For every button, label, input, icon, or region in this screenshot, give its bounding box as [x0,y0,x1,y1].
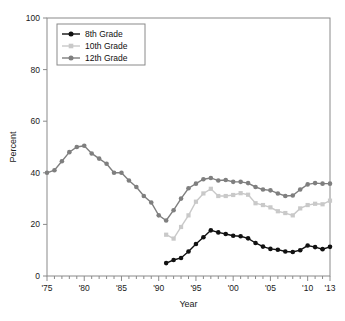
x-tick-label: '05 [265,283,276,293]
data-point [89,151,94,156]
data-point [246,181,251,186]
data-point [224,194,228,198]
data-point [261,203,265,207]
data-point [276,209,280,213]
data-point [223,178,228,183]
data-point [194,242,199,247]
data-point [313,202,317,206]
legend-label: 10th Grade [85,41,128,51]
x-tick-label: '10 [302,283,313,293]
data-point [268,205,272,209]
series-3 [45,143,333,222]
x-tick-label: '95 [190,283,201,293]
data-point [179,256,184,261]
data-point [320,247,325,252]
data-point [104,161,109,166]
x-tick-label: '13 [324,283,335,293]
data-point [216,178,221,183]
data-point [164,218,169,223]
x-axis-title: Year [179,299,197,309]
data-point [209,176,214,181]
data-point [253,241,258,246]
y-tick-label: 60 [31,116,41,126]
data-point [313,181,318,186]
data-point [201,177,206,182]
series-1 [164,228,332,265]
data-point [67,150,72,155]
data-point [172,236,176,240]
data-point [171,208,176,213]
data-point [186,186,191,191]
x-tick-label: '75 [41,283,52,293]
data-point [223,232,228,237]
data-point [119,171,124,176]
data-point [306,203,310,207]
legend-label: 12th Grade [85,53,128,63]
data-point [238,234,243,239]
data-point [45,171,50,176]
data-point [74,145,79,150]
data-point [52,168,57,173]
series-2 [164,187,332,241]
data-point [186,249,191,254]
x-tick-label: '80 [79,283,90,293]
data-point [328,245,333,250]
data-point [261,187,266,192]
data-point [164,261,169,266]
y-tick-label: 40 [31,168,41,178]
legend-label: 8th Grade [85,29,123,39]
data-point [261,244,266,249]
data-point [320,202,324,206]
legend-swatch-marker [69,56,74,61]
data-point [291,213,295,217]
line-chart: 020406080100'75'80'85'90'95'00'05'10'13Y… [0,0,345,321]
data-point [276,247,281,252]
data-point [209,228,214,233]
y-tick-label: 0 [35,271,40,281]
data-point [290,193,295,198]
data-point [246,236,251,241]
y-tick-label: 100 [26,13,40,23]
y-tick-label: 20 [31,219,41,229]
data-point [60,159,65,164]
data-point [290,250,295,255]
data-point [194,200,198,204]
y-tick-label: 80 [31,65,41,75]
x-tick-label: '85 [116,283,127,293]
data-point [156,213,161,218]
x-tick-label: '90 [153,283,164,293]
data-point [305,182,310,187]
legend-swatch-marker [69,32,74,37]
data-point [127,178,132,183]
data-point [298,187,303,192]
data-point [283,211,287,215]
data-point [171,258,176,263]
data-point [283,194,288,199]
data-point [298,206,302,210]
y-axis-title: Percent [8,131,18,163]
data-point [231,193,235,197]
data-point [142,194,147,199]
legend-swatch-marker [69,44,74,49]
data-point [149,200,154,205]
data-point [82,143,87,148]
data-point [164,233,168,237]
data-point [231,180,236,185]
data-point [179,196,184,201]
data-point [276,191,281,196]
data-point [253,201,257,205]
data-point [134,185,139,190]
data-point [209,187,213,191]
data-point [283,249,288,254]
data-point [112,171,117,176]
data-point [201,235,206,240]
data-point [216,230,221,235]
data-point [313,245,318,250]
data-point [239,191,243,195]
data-point [246,193,250,197]
data-point [201,191,205,195]
data-point [320,181,325,186]
series-line [47,146,330,221]
data-point [268,247,273,252]
data-point [253,185,258,190]
